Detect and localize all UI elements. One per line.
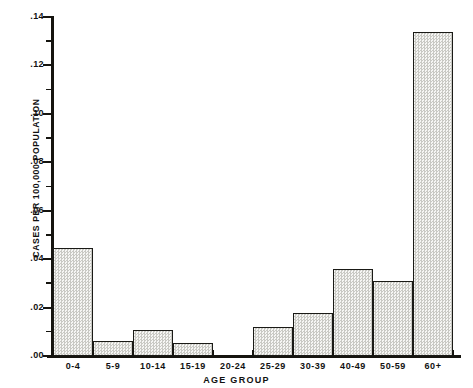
x-axis-tick [52, 350, 54, 356]
x-axis-label: AGE GROUP [0, 375, 473, 385]
x-axis-tick-label: 50-59 [373, 361, 413, 371]
x-axis-tick-label: 5-9 [93, 361, 133, 371]
x-axis-tick [252, 350, 254, 356]
x-axis-tick [132, 350, 134, 356]
bar-5-9 [93, 341, 133, 356]
x-axis-tick-label: 25-29 [253, 361, 293, 371]
x-axis-tick-label: 0-4 [53, 361, 93, 371]
bar-40-49 [333, 269, 373, 356]
bar-15-19 [173, 343, 213, 356]
bar-chart: CASES PER 100,000 POPULATION .00.02.04.0… [0, 0, 473, 388]
x-axis-tick [452, 350, 454, 356]
bar-10-14 [133, 330, 173, 356]
x-axis-tick-label: 60+ [413, 361, 453, 371]
bar-60plus [413, 32, 453, 356]
x-axis-tick [292, 350, 294, 356]
x-axis-tick [372, 350, 374, 356]
x-axis-tick [172, 350, 174, 356]
x-axis-tick-label: 10-14 [133, 361, 173, 371]
bar-series [0, 0, 473, 388]
x-axis-tick-label: 40-49 [333, 361, 373, 371]
x-axis-tick [92, 350, 94, 356]
x-axis-tick [212, 350, 214, 356]
x-axis-tick-label: 15-19 [173, 361, 213, 371]
bar-25-29 [253, 327, 293, 356]
x-axis-tick-label: 20-24 [213, 361, 253, 371]
bar-50-59 [373, 281, 413, 356]
x-axis-tick-label: 30-39 [293, 361, 333, 371]
bar-30-39 [293, 313, 333, 356]
x-axis-tick [412, 350, 414, 356]
x-axis-tick [332, 350, 334, 356]
bar-0-4 [53, 248, 93, 356]
